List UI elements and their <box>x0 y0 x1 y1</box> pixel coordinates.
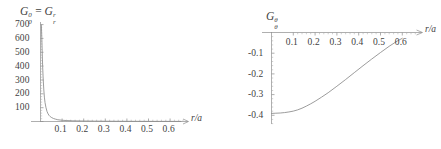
left-xtick-0.2: 0.2 <box>76 125 88 135</box>
left-ytick-400: 400 <box>15 62 30 72</box>
left-ytick-500: 500 <box>15 48 30 58</box>
left-xtick-0.5: 0.5 <box>141 125 153 135</box>
left-plot-canvas <box>0 0 221 149</box>
right-data-curve <box>272 38 403 113</box>
right-ytick--0.4: -0.4 <box>248 111 263 121</box>
right-x-axis-label: r/a <box>425 25 436 35</box>
right-xtick-0.1: 0.1 <box>286 38 298 48</box>
left-ytick-700: 700 <box>15 20 30 30</box>
figure-left: G00 = Grr 100 200 300 400 500 600 700 0.… <box>0 0 221 149</box>
right-xtick-0.4: 0.4 <box>351 38 363 48</box>
left-ytick-100: 100 <box>15 103 30 113</box>
left-xtick-0.4: 0.4 <box>119 125 131 135</box>
left-data-curve <box>41 25 181 121</box>
right-ytick--0.1: -0.1 <box>248 49 263 59</box>
right-xtick-0.6: 0.6 <box>395 38 407 48</box>
left-title-sub2: r <box>53 19 56 26</box>
right-plot-title: Gθθ <box>266 11 278 23</box>
left-x-axis-label: r/a <box>191 114 202 124</box>
left-xtick-0.1: 0.1 <box>55 125 67 135</box>
right-title-base1: G <box>266 10 274 22</box>
right-x-major-ticks <box>293 33 402 36</box>
left-title-equals: = <box>35 5 42 17</box>
right-ytick--0.3: -0.3 <box>248 90 263 100</box>
left-title-base2: G <box>45 5 53 17</box>
left-xtick-0.6: 0.6 <box>163 125 175 135</box>
left-plot-title: G00 = Grr <box>20 6 57 18</box>
left-ytick-200: 200 <box>15 89 30 99</box>
right-title-sub1: θ <box>274 24 277 31</box>
right-ytick--0.2: -0.2 <box>248 70 263 80</box>
left-title-base1: G <box>20 5 28 17</box>
right-xtick-0.5: 0.5 <box>373 38 385 48</box>
right-xtick-0.3: 0.3 <box>329 38 341 48</box>
figure-right: Gθθ -0.1 -0.2 -0.3 -0.4 0.1 0.2 0.3 0.4 … <box>220 0 441 149</box>
left-ytick-300: 300 <box>15 76 30 86</box>
right-xtick-0.2: 0.2 <box>308 38 320 48</box>
right-y-major-ticks <box>272 53 275 115</box>
left-ytick-600: 600 <box>15 34 30 44</box>
left-xtick-0.3: 0.3 <box>98 125 110 135</box>
